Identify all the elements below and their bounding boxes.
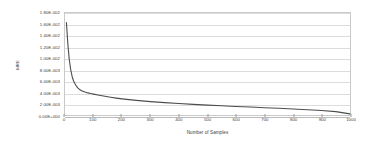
plot-area [64,12,351,116]
x-axis-title: Number of Samples [64,130,351,135]
x-tick-label: 200 [118,117,125,122]
x-tick-label: 0 [63,117,65,122]
y-tick-label: 1.00E-002 [40,56,60,61]
x-tick-label: 900 [319,117,326,122]
x-tick-label: 700 [261,117,268,122]
y-tick-label: 6.00E-003 [40,79,60,84]
x-tick-label: 300 [147,117,154,122]
x-axis-tick-labels: 01002003004005006007008009001000 [64,117,351,127]
chart-figure: MRE 0.00E+0002.00E-0034.00E-0036.00E-003… [0,0,367,151]
y-tick-label: 1.60E-002 [40,21,60,26]
x-tick-label: 100 [89,117,96,122]
y-axis-tick-labels: 0.00E+0002.00E-0034.00E-0036.00E-0038.00… [22,12,62,116]
x-tick-label: 500 [204,117,211,122]
x-tick-label: 600 [233,117,240,122]
y-tick-label: 2.00E-003 [40,102,60,107]
x-tick-label: 1000 [346,117,356,122]
y-tick-label: 1.80E-002 [40,10,60,15]
y-tick-label: 4.00E-003 [40,90,60,95]
series-path [66,23,350,114]
y-tick-label: 8.00E-003 [40,67,60,72]
y-tick-label: 1.40E-002 [40,33,60,38]
line-series-mre [65,13,350,115]
x-tick-label: 800 [290,117,297,122]
y-tick-label: 0.00E+000 [39,114,60,119]
x-tick-label: 400 [175,117,182,122]
y-tick-label: 1.20E-002 [40,44,60,49]
